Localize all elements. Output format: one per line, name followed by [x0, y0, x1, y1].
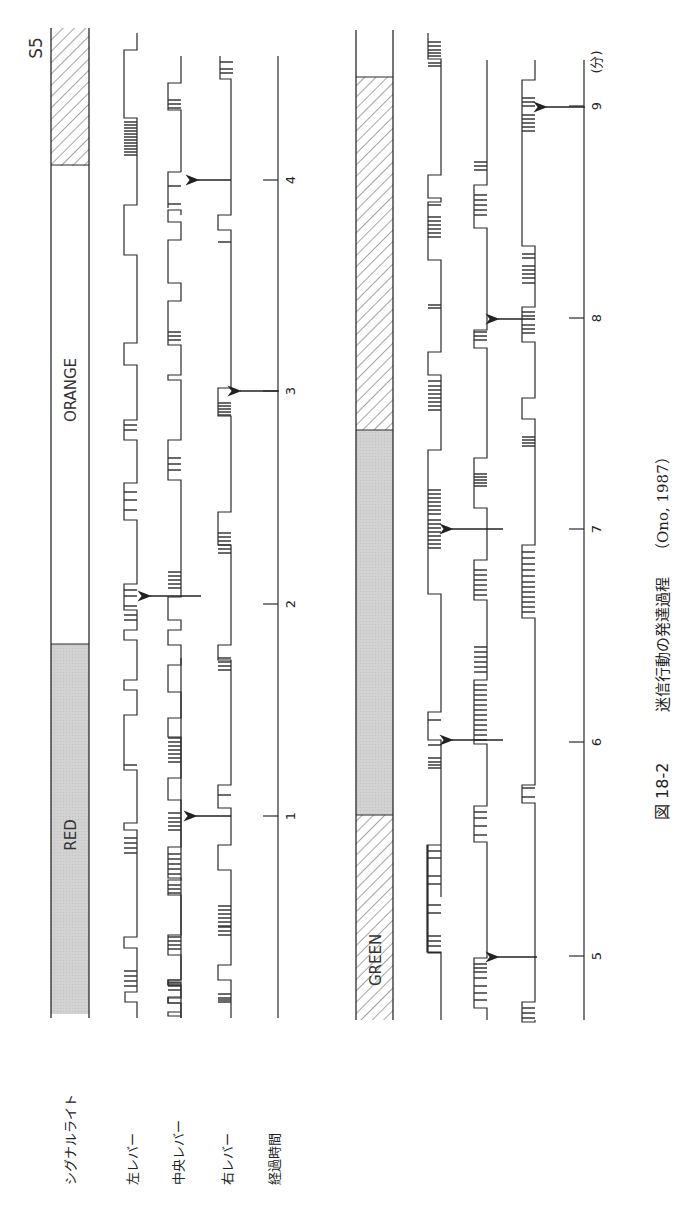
left-lever-trace-top [124, 33, 137, 1018]
caption-number: 図 18-2 [653, 763, 672, 820]
panel-bottom: GREEN [356, 30, 604, 1022]
row-label-elapsed-time: 経過時間 [267, 1133, 282, 1185]
tick-label-6: 6 [589, 738, 604, 746]
row-label-center-lever: 中央レバー [171, 1120, 186, 1185]
time-axis-top: 1 2 3 4 [263, 56, 298, 1018]
tick-label-4: 4 [283, 176, 298, 184]
tick-label-2: 2 [283, 600, 298, 608]
signal-label-orange: ORANGE [62, 358, 80, 422]
center-lever-responses-bottom [474, 162, 487, 1000]
signal-s5-segment [51, 28, 89, 166]
signal-label-green: GREEN [367, 934, 385, 986]
center-lever-trace-top [168, 658, 181, 1018]
right-lever-trace-bottom [522, 60, 535, 1022]
time-unit-label: (分) [589, 50, 604, 73]
left-lever-responses-bottom [428, 42, 441, 946]
signal-green-segment [356, 815, 393, 1020]
tick-label-9: 9 [589, 102, 604, 110]
tick-label-5: 5 [589, 952, 604, 960]
tick-label-7: 7 [589, 525, 604, 533]
left-lever-responses-top [124, 122, 137, 986]
right-lever-responses-bottom [522, 98, 535, 1018]
reinforcer-arrows-top [150, 180, 279, 816]
figure-caption: 図 18-2 迷信行動の発達過程 （Ono, 1987） [653, 449, 672, 820]
row-labels: シグナルライト 左レバー 中央レバー 右レバー 経過時間 [63, 1094, 282, 1185]
signal-label-red: RED [62, 819, 80, 850]
signal-gray-segment [356, 430, 393, 815]
caption-title: 迷信行動の発達過程 [654, 577, 672, 712]
signal-light-bar-bottom: GREEN [356, 30, 393, 1020]
center-lever-trace-bottom [474, 60, 487, 1020]
time-axis-bottom: 5 6 7 8 9 (分) [569, 50, 604, 1020]
row-label-signal-light: シグナルライト [63, 1094, 78, 1185]
signal-light-bar-top: RED ORANGE S5 [26, 28, 89, 1018]
caption-source: （Ono, 1987） [654, 449, 672, 558]
tick-label-3: 3 [283, 387, 298, 395]
panel-top: RED ORANGE S5 [26, 28, 298, 1018]
row-label-right-lever: 右レバー [220, 1133, 235, 1185]
tick-label-8: 8 [589, 314, 604, 322]
superstition-event-record-figure: RED ORANGE S5 [0, 0, 687, 1217]
left-lever-trace-bottom [427, 33, 441, 1020]
reinforcer-arrows-bottom [452, 107, 585, 957]
tick-label-1: 1 [283, 812, 298, 820]
row-label-left-lever: 左レバー [125, 1133, 140, 1185]
center-lever-responses-top [168, 100, 181, 990]
signal-label-s5: S5 [26, 37, 46, 59]
signal-hatched-segment-end [356, 77, 393, 430]
